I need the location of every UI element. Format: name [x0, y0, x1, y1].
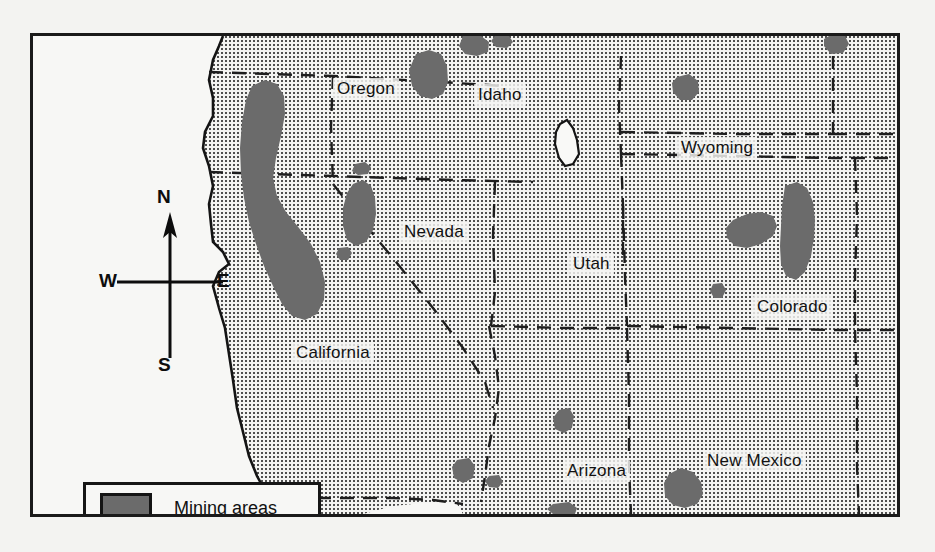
compass-south-label: S [158, 354, 171, 376]
map-legend: Mining areas [83, 482, 321, 517]
compass-rose: N S W E [95, 186, 245, 386]
map-page: Oregon Idaho Wyoming Nevada Utah Colorad… [0, 0, 935, 552]
legend-swatch-mining-areas [100, 493, 152, 518]
legend-label-mining-areas: Mining areas [174, 498, 277, 518]
map-frame: Oregon Idaho Wyoming Nevada Utah Colorad… [30, 33, 900, 517]
compass-west-label: W [99, 270, 117, 292]
compass-north-label: N [157, 186, 171, 208]
compass-east-label: E [217, 270, 230, 292]
